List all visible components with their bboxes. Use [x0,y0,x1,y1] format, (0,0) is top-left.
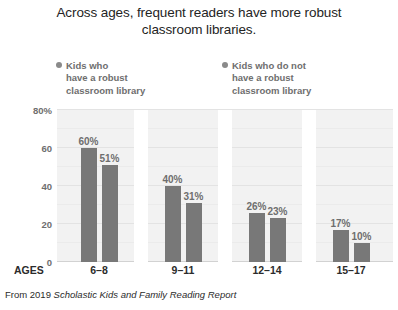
source-report-title: Scholastic Kids and Family Reading Repor… [54,289,237,300]
bar [186,203,202,262]
legend-bullet-icon [56,62,62,68]
bar [354,243,370,262]
legend-item-label: Kids who do not have a robust classroom … [232,60,311,98]
plot-area: 60%51%40%31%26%23%17%10% [57,110,393,262]
bar-value-label: 26% [247,201,267,212]
bar-value-label: 51% [100,153,120,164]
x-axis-tick-label: 6–8 [57,264,141,276]
bar [102,165,118,262]
y-axis-tick-label: 20 [0,219,52,230]
bar-value-label: 10% [352,231,372,242]
chart-legend: Kids who have a robust classroom library… [0,46,398,94]
y-axis-tick-label: 60 [0,143,52,154]
x-axis: AGES 6–89–1112–1415–17 [0,264,398,280]
bar-value-label: 60% [79,136,99,147]
bar [333,230,349,262]
legend-item-no-robust-library: Kids who do not have a robust classroom … [222,47,311,97]
x-axis-tick-label: 12–14 [225,264,309,276]
x-axis-tick-label: 15–17 [309,264,393,276]
bar [165,186,181,262]
bar [249,213,265,262]
y-axis: 020406080% [0,110,52,262]
bar-value-label: 23% [268,206,288,217]
bar-value-label: 17% [331,218,351,229]
bar-value-label: 31% [184,191,204,202]
bar-value-label: 40% [163,174,183,185]
legend-item-robust-library: Kids who have a robust classroom library [56,47,145,97]
group-separator [134,110,148,262]
bar [81,148,97,262]
legend-bullet-icon [222,62,228,68]
legend-item-label: Kids who have a robust classroom library [66,60,145,98]
x-axis-tick-label: 9–11 [141,264,225,276]
source-note: From 2019 Scholastic Kids and Family Rea… [5,289,236,300]
group-separator [218,110,232,262]
group-separator [302,110,316,262]
source-prefix: From 2019 [5,289,54,300]
y-axis-tick-label: 80% [0,105,52,116]
page-title: Across ages, frequent readers have more … [0,0,398,38]
bar [270,218,286,262]
x-axis-title: AGES [14,264,44,276]
y-axis-tick-label: 40 [0,181,52,192]
